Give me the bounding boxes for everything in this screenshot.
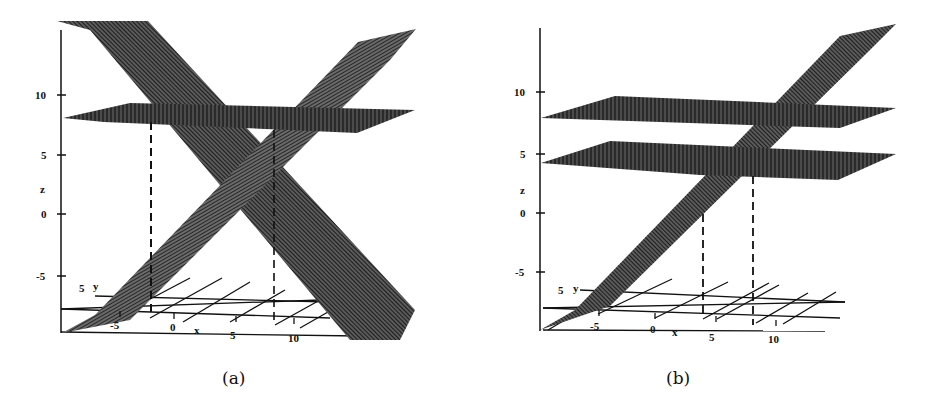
plane-horizontal-lower-b	[541, 141, 896, 180]
x-tick-0-b: 0	[650, 323, 656, 335]
y-tick-5-a: 5	[79, 282, 85, 294]
z-tick-5-b: 5	[520, 148, 526, 160]
y-axis-label-b: y	[573, 282, 579, 294]
x-axis-label-a: x	[194, 324, 200, 336]
panel-b: 10 5 0 -5 z -5 0 5 10 x 5 y	[514, 24, 896, 345]
figure: 10 5 0 -5 z -5 0 5 10 x 5 y	[0, 0, 925, 412]
z-tick-10-a: 10	[35, 89, 47, 101]
caption-a: (a)	[222, 368, 245, 388]
x-ticks-a	[120, 311, 294, 324]
plane-horizontal-upper-b	[541, 96, 896, 128]
x-tick-0-a: 0	[170, 321, 176, 333]
y-axis-label-a: y	[93, 280, 99, 292]
x-tick-neg5-a: -5	[110, 319, 120, 331]
panel-a: 10 5 0 -5 z -5 0 5 10 x 5 y	[35, 21, 416, 344]
figure-canvas: 10 5 0 -5 z -5 0 5 10 x 5 y	[0, 0, 925, 412]
x-tick-5-b: 5	[709, 331, 715, 343]
z-tick-neg5-b: -5	[515, 266, 525, 278]
z-tick-neg5-a: -5	[36, 270, 46, 282]
caption-b: (b)	[666, 368, 690, 388]
z-axis-label-b: z	[520, 184, 525, 196]
x-tick-5-a: 5	[230, 329, 236, 341]
z-tick-0-a: 0	[41, 208, 47, 220]
y-tick-5-b: 5	[558, 284, 564, 296]
x-tick-10-b: 10	[768, 333, 780, 345]
x-tick-neg5-b: -5	[590, 320, 600, 332]
x-tick-10-a: 10	[288, 332, 300, 344]
x-axis-label-b: x	[672, 326, 678, 338]
z-tick-5-a: 5	[41, 149, 47, 161]
z-tick-0-b: 0	[520, 207, 526, 219]
z-tick-10-b: 10	[514, 86, 526, 98]
z-axis-label-a: z	[40, 183, 45, 195]
